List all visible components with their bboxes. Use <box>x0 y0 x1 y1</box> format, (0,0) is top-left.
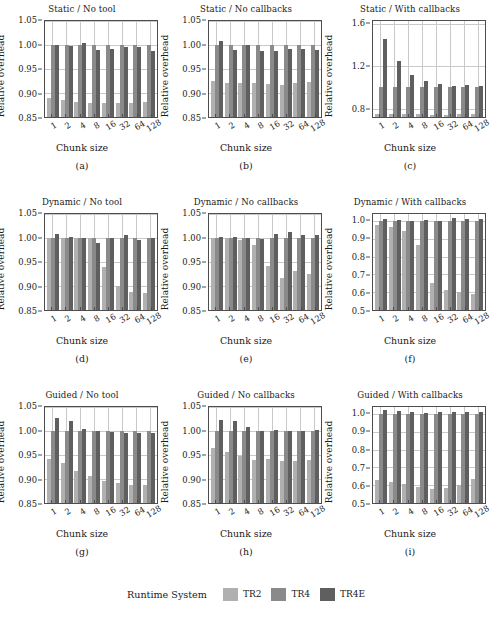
bar-tr4e <box>452 218 456 310</box>
bar-group <box>115 214 129 310</box>
x-tick-mark <box>422 114 423 118</box>
bar-tr4e <box>260 431 264 503</box>
bar-group <box>429 21 443 117</box>
bar-group <box>251 21 265 117</box>
y-tick-label: 1.00 <box>18 426 37 436</box>
legend-label: TR4E <box>340 589 365 599</box>
y-tick-label: 0.85 <box>18 499 37 509</box>
x-tick-label: 1 <box>213 313 223 324</box>
chart-panel-a: Static / No toolRelative overhead0.850.9… <box>0 0 164 193</box>
bar-tr4e <box>274 430 278 503</box>
y-tick-label: 0.7 <box>352 270 365 280</box>
plot-area: Relative overhead0.850.900.951.001.05124… <box>0 209 164 329</box>
x-tick-mark <box>94 500 95 504</box>
bar-group <box>60 214 74 310</box>
bar-group <box>429 407 443 503</box>
x-tick-mark <box>137 114 138 118</box>
bar-tr4e <box>410 412 414 503</box>
x-tick-mark <box>436 307 437 311</box>
x-tick-mark <box>94 307 95 311</box>
bar-tr4e <box>110 49 114 117</box>
x-tick-mark <box>408 500 409 504</box>
bar-tr4e <box>110 238 114 310</box>
y-tick-label: 1.05 <box>18 15 37 25</box>
x-tick-mark <box>244 114 245 118</box>
bar-tr4e <box>137 240 141 310</box>
chart-panel-e: Dynamic / No callbacksRelative overhead0… <box>164 193 328 386</box>
x-tick-mark <box>244 307 245 311</box>
bar-tr4e <box>288 431 292 503</box>
x-tick-label: 16 <box>432 311 446 325</box>
x-tick-mark <box>51 500 52 504</box>
panel-caption: (g) <box>0 546 164 557</box>
x-axis-label: Chunk size <box>0 335 164 346</box>
x-axis-ticks: 1248163264128 <box>208 311 322 329</box>
chart-panel-i: Guided / With callbacksRelative overhead… <box>328 386 492 579</box>
bar-series-container <box>373 214 485 310</box>
bar-group <box>46 21 60 117</box>
x-tick-label: 2 <box>63 120 73 131</box>
bar-tr4e <box>274 51 278 117</box>
legend-swatch-icon <box>271 588 286 601</box>
x-axis-ticks: 1248163264128 <box>372 504 486 522</box>
x-tick-label: 1 <box>377 313 387 324</box>
bar-tr4e <box>452 412 456 503</box>
bar-group <box>279 214 293 310</box>
x-axis-label: Chunk size <box>328 335 492 346</box>
x-tick-label: 4 <box>77 120 87 131</box>
x-tick-label: 16 <box>432 504 446 518</box>
x-tick-label: 4 <box>405 506 415 517</box>
bar-tr4e <box>69 421 73 503</box>
x-tick-label: 2 <box>227 506 237 517</box>
x-tick-mark <box>465 500 466 504</box>
x-tick-label: 2 <box>227 313 237 324</box>
bar-tr4e <box>69 237 73 310</box>
bar-group <box>224 21 238 117</box>
x-tick-label: 2 <box>63 313 73 324</box>
y-tick-mark <box>38 286 42 287</box>
panel-caption: (b) <box>164 160 328 171</box>
panel-caption: (c) <box>328 160 492 171</box>
bar-tr4e <box>315 235 319 310</box>
y-tick-mark <box>366 23 370 24</box>
panel-caption: (e) <box>164 353 328 364</box>
y-tick-mark <box>202 311 206 312</box>
plot-box <box>372 213 486 311</box>
bar-group <box>402 407 416 503</box>
x-tick-label: 4 <box>241 313 251 324</box>
bar-tr4e <box>438 221 442 310</box>
x-tick-mark <box>393 114 394 118</box>
x-tick-mark <box>80 307 81 311</box>
x-tick-label: 16 <box>268 311 282 325</box>
x-tick-mark <box>315 500 316 504</box>
legend-swatch-icon <box>320 588 335 601</box>
x-axis-ticks: 1248163264128 <box>372 311 486 329</box>
y-tick-label: 1.05 <box>18 401 37 411</box>
y-axis-ticks: 0.850.900.951.001.05 <box>164 406 206 504</box>
legend-swatch-icon <box>223 588 238 601</box>
x-tick-label: 1 <box>377 120 387 131</box>
y-tick-mark <box>38 69 42 70</box>
y-tick-label: 1.05 <box>182 15 201 25</box>
x-tick-label: 4 <box>241 506 251 517</box>
y-tick-label: 0.90 <box>18 475 37 485</box>
y-tick-label: 0.7 <box>352 463 365 473</box>
bar-group <box>101 21 115 117</box>
y-tick-mark <box>366 311 370 312</box>
x-axis-label: Chunk size <box>328 142 492 153</box>
chart-panel-h: Guided / No callbacksRelative overhead0.… <box>164 386 328 579</box>
plot-area: Relative overhead0.850.900.951.001.05124… <box>164 402 328 522</box>
x-tick-mark <box>315 307 316 311</box>
plot-area: Relative overhead0.850.900.951.001.05124… <box>0 402 164 522</box>
bar-tr4e <box>465 219 469 310</box>
y-tick-label: 0.9 <box>352 233 365 243</box>
x-axis-ticks: 1248163264128 <box>44 311 158 329</box>
bar-group <box>265 21 279 117</box>
x-tick-mark <box>65 500 66 504</box>
y-tick-mark <box>202 504 206 505</box>
bar-tr4e <box>55 418 59 503</box>
bar-group <box>60 407 74 503</box>
y-tick-label: 0.90 <box>18 282 37 292</box>
bar-group <box>210 21 224 117</box>
bar-group <box>388 407 402 503</box>
